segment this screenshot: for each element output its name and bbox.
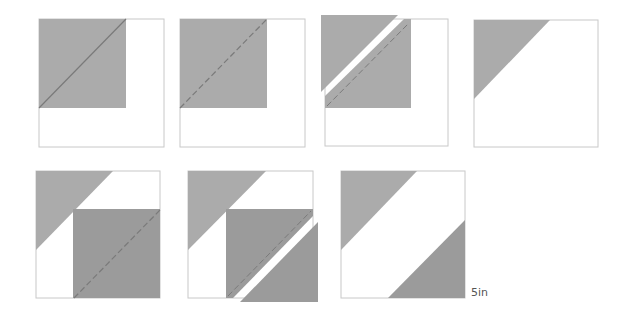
step-5-panel xyxy=(36,171,160,298)
step-3-panel xyxy=(321,15,448,146)
step-1-panel xyxy=(39,19,164,147)
step-7-panel xyxy=(341,171,465,298)
diagram-canvas xyxy=(0,0,627,312)
step-4-panel xyxy=(474,20,598,147)
dark-square xyxy=(73,209,160,298)
size-label: 5in xyxy=(471,286,488,299)
step-6-panel xyxy=(188,171,318,302)
step-2-panel xyxy=(180,19,305,147)
